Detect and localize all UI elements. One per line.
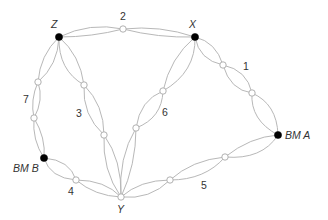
station-x-node [191, 33, 198, 40]
turning-point [35, 79, 41, 85]
line-6-label: 6 [162, 106, 168, 118]
turning-point [133, 125, 139, 131]
turning-point [31, 115, 37, 121]
line-2 [59, 27, 195, 37]
line-7-label: 7 [23, 93, 29, 105]
line-5-label: 5 [201, 179, 207, 191]
line-1 [195, 37, 278, 135]
benchmark-b-label: BM B [13, 162, 39, 174]
line-2-label: 2 [120, 10, 126, 22]
turning-point [81, 82, 87, 88]
benchmark-a-node [274, 131, 281, 138]
line-5 [121, 135, 278, 197]
turning-point [101, 132, 107, 138]
turning-point [222, 154, 228, 160]
turning-points [31, 26, 255, 200]
line-6 [121, 37, 195, 197]
station-y-label: Y [117, 203, 125, 215]
station-z-node [55, 33, 62, 40]
turning-point [120, 26, 126, 32]
turning-point [73, 177, 79, 183]
levelling-network-diagram: Z X Y BM A BM B 1 2 3 4 5 6 7 [0, 0, 328, 220]
line-3 [59, 37, 121, 197]
line-4 [44, 158, 121, 197]
turning-point [167, 177, 173, 183]
station-z-label: Z [50, 18, 58, 30]
station-y-node [118, 194, 124, 200]
line-1-label: 1 [243, 60, 249, 72]
benchmark-a-label: BM A [285, 129, 310, 141]
station-x-label: X [188, 18, 197, 30]
line-4-label: 4 [68, 185, 74, 197]
turning-point [220, 62, 226, 68]
benchmark-b-node [40, 154, 47, 161]
turning-point [249, 90, 255, 96]
line-3-label: 3 [76, 107, 82, 119]
turning-point [160, 88, 166, 94]
line-7 [33, 37, 59, 158]
fixed-points [40, 33, 281, 161]
